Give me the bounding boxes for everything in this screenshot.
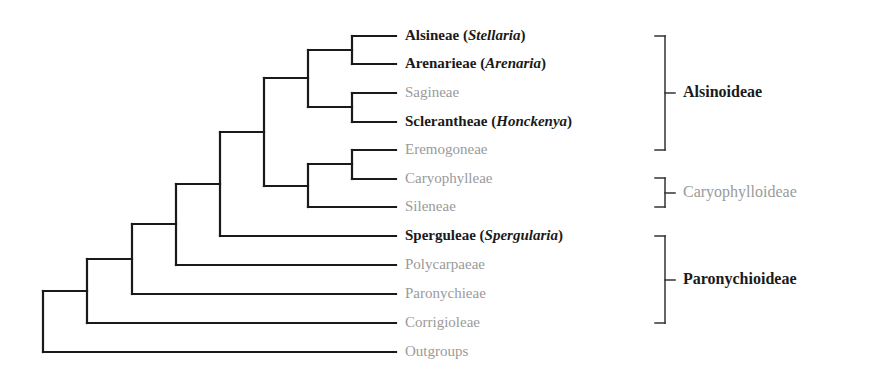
tribe-name: Sileneae <box>405 198 456 214</box>
leaf-label-sperguleae: Sperguleae (Spergularia) <box>405 226 563 244</box>
genus-name: Arenaria <box>485 55 541 71</box>
leaf-label-sileneae: Sileneae <box>405 197 456 215</box>
tribe-name: Corrigioleae <box>405 314 480 330</box>
leaf-label-paronychieae: Paronychieae <box>405 284 486 302</box>
genus-name: Spergularia <box>485 227 558 243</box>
leaf-label-sclerantheae: Sclerantheae (Honckenya) <box>405 112 572 130</box>
genus-name: Stellaria <box>468 27 521 43</box>
tribe-name: Sagineae <box>405 84 459 100</box>
tribe-name: Arenarieae <box>405 55 476 71</box>
leaf-label-sagineae: Sagineae <box>405 83 459 101</box>
tribe-name: Sclerantheae <box>405 113 487 129</box>
group-label-alsinoideae: Alsinoideae <box>683 83 762 101</box>
leaf-label-corrigioleae: Corrigioleae <box>405 313 480 331</box>
tribe-name: Polycarpaeae <box>405 256 485 272</box>
group-label-caryophylloideae: Caryophylloideae <box>683 183 797 201</box>
tribe-name: Sperguleae <box>405 227 476 243</box>
group-label-paronychioideae: Paronychioideae <box>683 270 796 288</box>
tribe-name: Eremogoneae <box>405 141 487 157</box>
leaf-label-caryophylleae: Caryophylleae <box>405 169 492 187</box>
tribe-name: Outgroups <box>405 343 468 359</box>
leaf-label-arenarieae: Arenarieae (Arenaria) <box>405 54 546 72</box>
genus-name: Honckenya <box>496 113 567 129</box>
leaf-label-alsineae: Alsineae (Stellaria) <box>405 26 525 44</box>
tribe-name: Caryophylleae <box>405 170 492 186</box>
leaf-label-outgroups: Outgroups <box>405 342 468 360</box>
leaf-label-polycarpaeae: Polycarpaeae <box>405 255 485 273</box>
tribe-name: Paronychieae <box>405 285 486 301</box>
tribe-name: Alsineae <box>405 27 459 43</box>
leaf-label-eremogoneae: Eremogoneae <box>405 140 487 158</box>
